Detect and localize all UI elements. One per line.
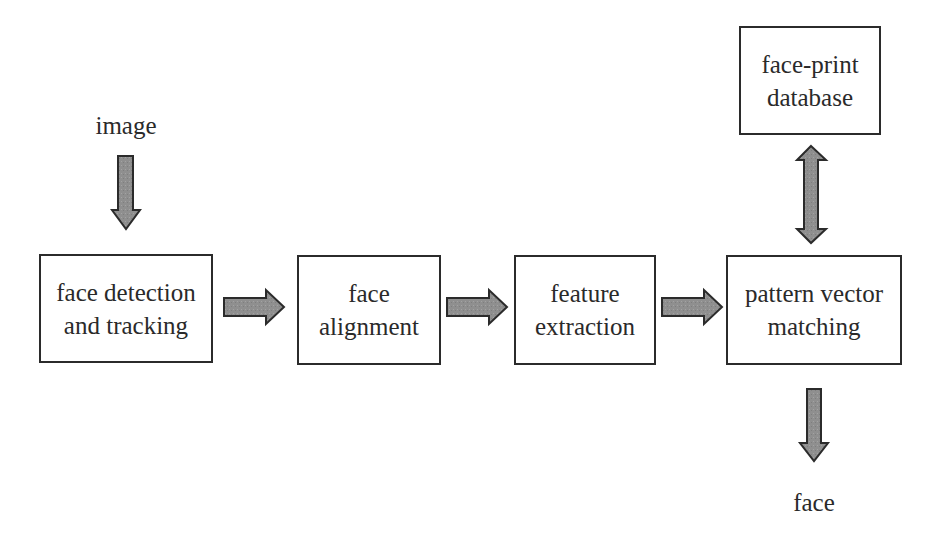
node-pattern-vector-matching: pattern vector matching bbox=[726, 255, 902, 365]
node-face-detection: face detection and tracking bbox=[39, 254, 213, 363]
node-face-alignment: face alignment bbox=[297, 255, 441, 365]
output-label: face bbox=[774, 489, 854, 517]
arrow-bidirectional-icon bbox=[797, 146, 826, 243]
node-label: alignment bbox=[319, 310, 419, 343]
node-label: pattern vector bbox=[745, 277, 883, 310]
node-label: feature bbox=[550, 277, 619, 310]
face-recognition-diagram: image face detection and tracking face a… bbox=[0, 0, 939, 539]
node-face-print-database: face-print database bbox=[739, 26, 881, 135]
node-label: database bbox=[767, 81, 853, 114]
node-label: extraction bbox=[535, 310, 635, 343]
arrow-right-icon bbox=[224, 290, 284, 324]
node-label: face-print bbox=[761, 48, 858, 81]
arrow-right-icon bbox=[662, 290, 722, 324]
arrow-right-icon bbox=[447, 290, 507, 324]
input-label: image bbox=[86, 112, 166, 140]
node-label: and tracking bbox=[64, 309, 188, 342]
node-label: matching bbox=[767, 310, 860, 343]
node-feature-extraction: feature extraction bbox=[514, 255, 656, 365]
arrow-down-icon bbox=[800, 389, 828, 461]
node-label: face bbox=[348, 277, 390, 310]
node-label: face detection bbox=[56, 276, 196, 309]
arrow-down-icon bbox=[112, 156, 140, 229]
